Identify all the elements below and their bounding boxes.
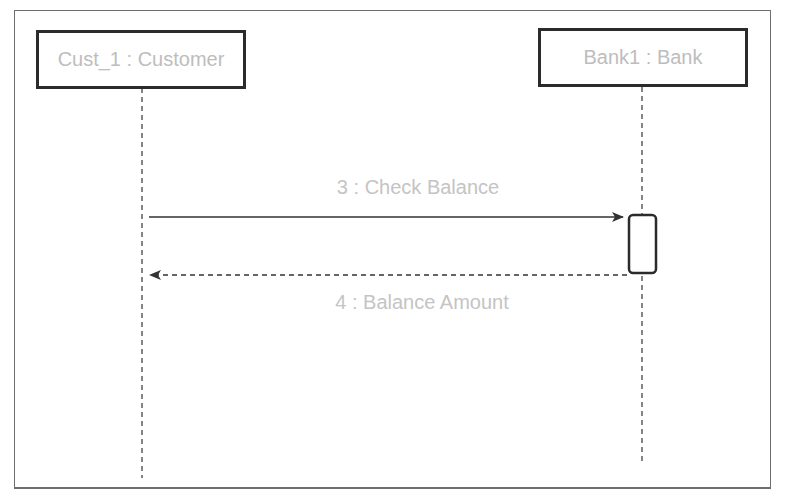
- bank-lifeline-label: Bank1 : Bank: [584, 46, 703, 69]
- balance-amount-label: 4 : Balance Amount: [335, 291, 508, 314]
- check-balance-label: 3 : Check Balance: [337, 176, 499, 199]
- bank-lifeline-head[interactable]: Bank1 : Bank: [538, 28, 748, 87]
- bank-activation-bar: [629, 215, 656, 273]
- customer-lifeline-label: Cust_1 : Customer: [58, 48, 225, 71]
- customer-lifeline-head[interactable]: Cust_1 : Customer: [36, 30, 246, 89]
